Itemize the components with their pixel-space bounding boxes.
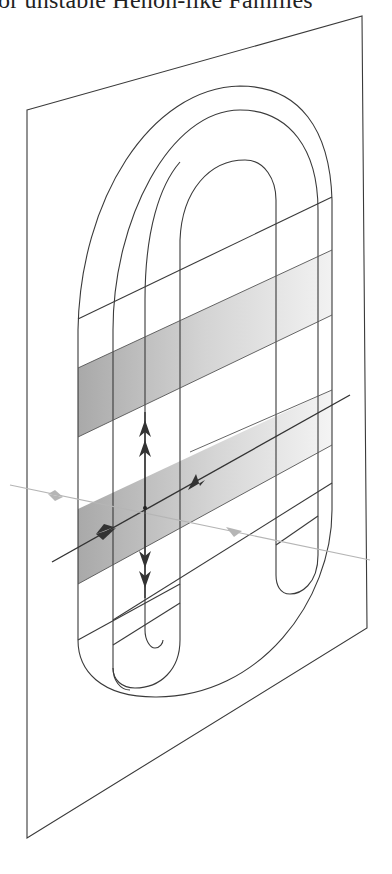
diag-line-7 [276,516,318,545]
inner-u [180,160,276,640]
horseshoe-diagram [0,0,392,874]
transverse-arrow-right-icon [226,527,242,537]
third-curve [145,162,180,648]
saddle-point [143,506,147,510]
inner-u-bottom [113,640,180,688]
